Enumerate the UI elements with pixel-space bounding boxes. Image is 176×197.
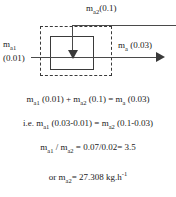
label-outlet-right: ma (0.03) (118, 40, 152, 54)
label-inlet-left-symbol: ma1 (3, 39, 16, 49)
mass-balance-diagram: ma2(0.1) ma1 (0.01) ma (0.03) (0, 0, 176, 86)
label-inlet-left-value: (0.01) (3, 53, 25, 63)
equation-ratio: ma1 / ma2 = 0.07/0.02= 3.5 (0, 142, 176, 156)
label-inlet-left: ma1 (0.01) (3, 39, 25, 63)
right-arrow-icon (156, 52, 165, 62)
equation-rearranged-balance: i.e. ma1 (0.03-0.01) = ma2 (0.1-0.03) (0, 118, 176, 132)
equation-result: or ma2= 27.308 kg.h-1 (0, 168, 176, 186)
inlet-stream-line-top-vertical (72, 25, 73, 52)
outlet-stream-line-right (112, 57, 158, 58)
down-arrow-icon (68, 50, 78, 59)
figure-container: ma2(0.1) ma1 (0.01) ma (0.03) ma1 (0.01)… (0, 0, 176, 197)
equation-block: ma1 (0.01) + ma2 (0.1) = ma (0.03) i.e. … (0, 86, 176, 197)
label-inlet-top: ma2(0.1) (86, 3, 116, 17)
inlet-stream-line-top-horizontal (72, 25, 176, 26)
equation-mass-balance: ma1 (0.01) + ma2 (0.1) = ma (0.03) (0, 94, 176, 108)
